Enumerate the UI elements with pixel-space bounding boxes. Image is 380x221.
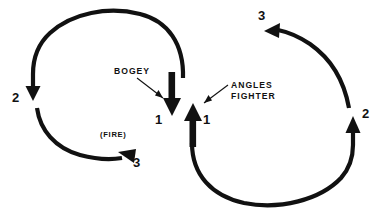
angles-fighter-label-line1: ANGLES — [231, 80, 273, 90]
fighter-arrow-head — [184, 103, 202, 121]
bogey-leader-arrowhead — [155, 90, 163, 98]
maneuver-diagram: BOGEY ANGLES FIGHTER (FIRE) 2 3 1 1 2 3 — [0, 0, 380, 221]
bogey-arrow-shaft — [169, 72, 176, 102]
bogey-pos2-arrowhead — [26, 86, 41, 101]
fighter-position-2-marker: 2 — [362, 106, 369, 121]
fighter-lower-arc — [192, 133, 353, 205]
fighter-leader-arrowhead — [204, 95, 212, 103]
bogey-arrow-head — [163, 98, 181, 116]
fighter-position-1-marker: 1 — [203, 112, 210, 127]
fighter-position-3-marker: 3 — [258, 8, 265, 23]
angles-fighter-label-line2: FIGHTER — [231, 91, 276, 101]
bogey-position-1-marker: 1 — [155, 112, 162, 127]
bogey-position-2-marker: 2 — [12, 90, 19, 105]
bogey-aircraft-marker — [163, 72, 181, 116]
bogey-upper-arc — [33, 11, 183, 86]
fighter-pos3-arrowhead — [264, 23, 280, 38]
fighter-aircraft-marker — [184, 103, 202, 147]
bogey-label: BOGEY — [114, 66, 150, 76]
diagram-canvas: BOGEY ANGLES FIGHTER (FIRE) 2 3 1 1 2 3 — [0, 0, 380, 221]
fighter-pos2-arrowhead — [346, 116, 361, 133]
fire-label: (FIRE) — [100, 130, 127, 139]
bogey-position-3-marker: 3 — [133, 155, 140, 170]
fighter-arrow-shaft — [190, 117, 197, 147]
fighter-upper-arc — [278, 30, 349, 108]
